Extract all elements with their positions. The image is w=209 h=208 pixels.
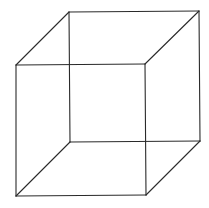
necker-cube-diagram [0,0,209,208]
edge-bottom-right [146,141,200,195]
edge-bottom-left [16,142,70,196]
back-top-edge [69,11,199,12]
front-top-edge [16,64,145,65]
back-left-edge [69,12,70,142]
front-right-edge [145,64,146,195]
edge-top-left [16,12,69,65]
back-right-edge [199,11,200,141]
front-bottom-edge [16,195,146,196]
back-bottom-edge [70,141,200,142]
edge-top-right [145,11,199,64]
connecting-edges [16,11,200,196]
back-face [69,11,200,142]
